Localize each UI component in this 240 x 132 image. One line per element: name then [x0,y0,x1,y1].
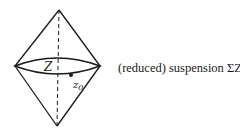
space-z-lens [15,58,100,74]
diagram-caption: (reduced) suspension ΣZ [118,61,240,76]
basepoint-label: z0 [72,79,83,92]
space-label: Z [43,60,53,74]
basepoint-dashed-line [57,10,59,126]
basepoint-dot [69,73,73,77]
bottom-right-edge [57,66,100,126]
basepoint-label-sub: 0 [78,83,83,92]
bottom-left-edge [15,66,57,126]
